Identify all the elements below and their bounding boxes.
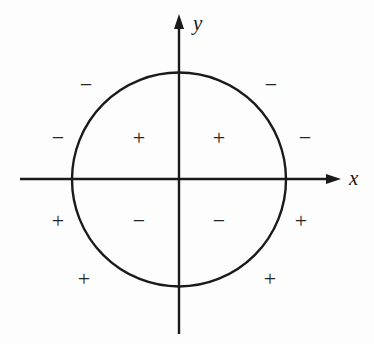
- sign-outside-bottom-right: +: [264, 268, 276, 290]
- sign-outside-left-lower: +: [52, 210, 64, 232]
- sign-outside-top-left: −: [80, 74, 92, 96]
- y-axis-arrowhead-icon: [174, 14, 184, 29]
- sign-diagram-figure: y x − − − + + − + − − + + +: [0, 0, 374, 344]
- sign-outside-right-lower: +: [295, 210, 307, 232]
- sign-outside-left-upper: −: [52, 127, 64, 149]
- sign-outside-bottom-left: +: [78, 268, 90, 290]
- sign-inside-upper-left: +: [133, 127, 145, 149]
- sign-inside-upper-right: +: [213, 127, 225, 149]
- x-axis-label: x: [349, 168, 358, 189]
- y-axis-label: y: [193, 13, 202, 34]
- sign-outside-top-right: −: [265, 74, 277, 96]
- x-axis-arrowhead-icon: [326, 174, 341, 184]
- sign-inside-lower-left: −: [133, 210, 145, 232]
- sign-inside-lower-right: −: [213, 210, 225, 232]
- diagram-canvas: [0, 0, 374, 344]
- sign-outside-right-upper: −: [299, 127, 311, 149]
